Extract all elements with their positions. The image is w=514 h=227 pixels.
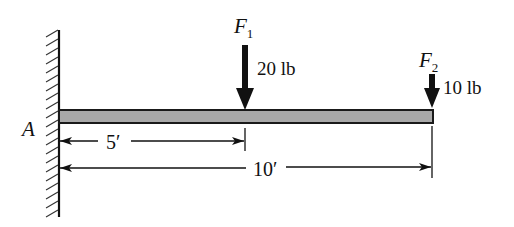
force-f1-label: F1 <box>233 14 253 41</box>
fixed-wall-support <box>46 30 59 217</box>
force-f1-arrow-shaft <box>242 45 248 91</box>
down-arrow-icon <box>424 88 440 108</box>
force-f2-label: F2 <box>418 48 438 75</box>
force-f2: F2 10 lb <box>418 48 482 108</box>
dimension-5ft-label: 5′ <box>106 131 120 153</box>
support-label-a: A <box>20 117 35 141</box>
force-f1-magnitude: 20 lb <box>257 58 296 79</box>
force-f1: F1 20 lb <box>233 14 296 110</box>
cantilever-beam-diagram: A F1 20 lb F2 10 lb 5′ 10′ <box>0 0 514 227</box>
dimension-10ft-label: 10′ <box>253 158 277 180</box>
dimension-5ft: 5′ <box>60 128 245 153</box>
wall-hatching <box>46 30 58 217</box>
beam <box>59 110 433 123</box>
down-arrow-icon <box>236 88 254 110</box>
force-f2-magnitude: 10 lb <box>443 77 482 98</box>
